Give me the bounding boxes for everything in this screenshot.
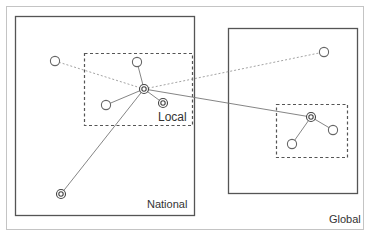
link-hub-G1 (144, 52, 324, 89)
link-C-hub (106, 89, 144, 105)
global-label: Global (329, 214, 361, 225)
node-G1-node-icon (319, 47, 328, 56)
local-label: Local (158, 111, 187, 123)
region-global (229, 29, 358, 194)
national-label: National (147, 199, 187, 210)
node-E-hub-icon (57, 190, 66, 199)
link-A-hub (55, 61, 144, 89)
node-C-node-icon (101, 100, 110, 109)
node-hub2-hub-icon (307, 113, 316, 122)
node-G2-node-icon (328, 125, 337, 134)
node-G3-node-icon (287, 139, 296, 148)
diagram-canvas: Local National Global (0, 0, 370, 236)
node-A-node-icon (50, 56, 59, 65)
node-hub-hub-icon (140, 85, 149, 94)
node-B-node-icon (132, 57, 141, 66)
node-D-hub-icon (159, 99, 168, 108)
